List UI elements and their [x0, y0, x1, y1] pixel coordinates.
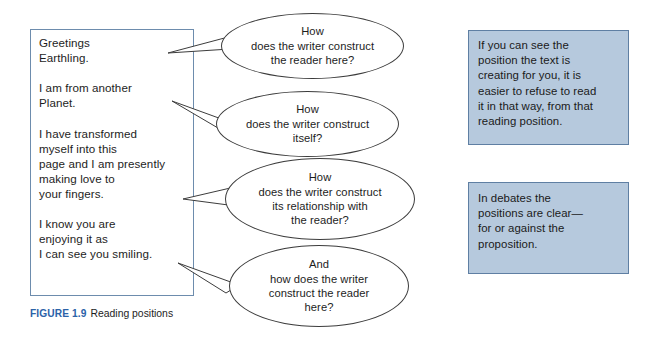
speech-bubble-3-text: How does the writer construct its relati… [252, 170, 387, 228]
speech-bubble-4: And how does the writer construct the re… [229, 245, 409, 327]
figure-caption: FIGURE 1.9Reading positions [30, 308, 173, 319]
commentary-box-2-text: In debates the positions are clear— for … [478, 191, 626, 252]
speech-bubble-2: How does the writer construct itself? [216, 91, 399, 157]
figure-caption-label: FIGURE 1.9 [30, 308, 86, 319]
alien-letter-text: Greetings Earthling. I am from another P… [39, 35, 199, 261]
speech-bubble-4-text: And how does the writer construct the re… [263, 257, 376, 315]
speech-bubble-1: How does the writer construct the reader… [221, 13, 404, 79]
figure-reading-positions: Greetings Earthling. I am from another P… [0, 0, 659, 343]
speech-bubble-1-text: How does the writer construct the reader… [245, 24, 380, 67]
commentary-box-1-text: If you can see the position the text is … [478, 38, 626, 129]
figure-caption-title: Reading positions [90, 308, 173, 319]
speech-bubble-3: How does the writer construct its relati… [225, 158, 415, 240]
speech-bubble-2-text: How does the writer construct itself? [240, 102, 375, 145]
